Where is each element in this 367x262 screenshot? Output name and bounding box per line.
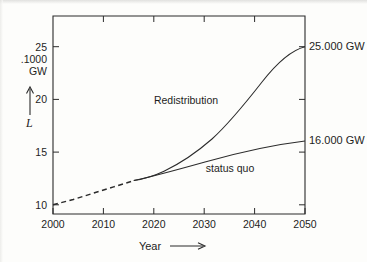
series-label-redistribution: Redistribution (154, 94, 218, 106)
series-label-status-quo: status quo (206, 162, 255, 174)
x-tick-label-2010: 2010 (92, 218, 116, 230)
y-tick-label-25: 25 (35, 41, 47, 53)
x-axis-direction-arrow-icon (170, 243, 205, 249)
y-axis-direction-arrow-icon (27, 87, 34, 115)
x-tick-label-2020: 2020 (142, 218, 166, 230)
x-axis-ticks-top (103, 16, 254, 22)
y-axis-unit-gw: GW (29, 65, 47, 77)
endpoint-label-status-quo: 16.000 GW (309, 134, 365, 146)
x-axis-title: Year (139, 240, 162, 252)
chart-figure: 25 20 15 10 .1000 GW L 2000 2010 2020 20… (0, 0, 367, 262)
series-historical-dashed (53, 181, 134, 205)
x-tick-label-2040: 2040 (243, 218, 267, 230)
y-tick-label-10: 10 (35, 199, 47, 211)
line-chart-svg: 25 20 15 10 .1000 GW L 2000 2010 2020 20… (0, 0, 367, 262)
y-axis-variable-label: L (25, 116, 33, 130)
series-redistribution (134, 47, 305, 181)
y-tick-label-15: 15 (35, 146, 47, 158)
plot-frame (53, 16, 305, 214)
x-tick-label-2030: 2030 (193, 218, 217, 230)
x-tick-label-2000: 2000 (41, 218, 65, 230)
endpoint-label-redistribution: 25.000 GW (309, 40, 365, 52)
x-tick-label-2050: 2050 (293, 218, 317, 230)
series-status-quo (134, 141, 305, 181)
y-axis-ticks (53, 47, 59, 205)
x-axis-ticks (53, 208, 305, 214)
y-axis-ticks-right (299, 47, 305, 205)
y-tick-label-20: 20 (35, 93, 47, 105)
y-axis-unit-scale: .1000 (21, 53, 47, 65)
